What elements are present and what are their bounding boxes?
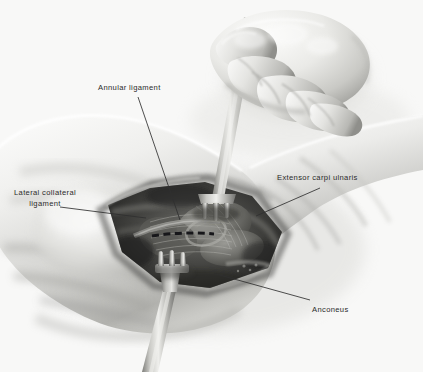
retractor-prongs [158, 250, 186, 266]
anatomy-illustration [0, 0, 423, 372]
label-extensor-carpi-ulnaris: Extensor carpi ulnaris [277, 173, 358, 184]
label-anconeus: Anconeus [312, 305, 349, 316]
label-annular-ligament: Annular ligament [98, 83, 161, 94]
illustration-page: Annular ligament Lateral collateral liga… [0, 0, 423, 372]
label-lateral-collateral-ligament: Lateral collateral ligament [6, 188, 84, 209]
